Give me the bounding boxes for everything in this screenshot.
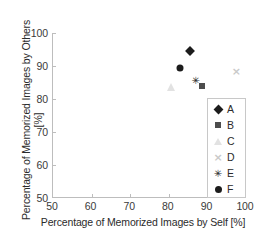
x-tick-label: 70 bbox=[114, 200, 144, 212]
y-tick-label: 90 bbox=[16, 60, 48, 72]
legend-marker-cross-x-icon: × bbox=[212, 151, 224, 163]
x-tick-label: 60 bbox=[76, 200, 106, 212]
y-tick-label: 80 bbox=[16, 93, 48, 105]
marker-circle-icon bbox=[177, 64, 184, 71]
y-tick-label: 60 bbox=[16, 159, 48, 171]
y-axis-title: Percentage of Memorized Images by Others… bbox=[20, 20, 44, 220]
x-axis-tick bbox=[130, 194, 131, 198]
legend-label: B bbox=[227, 119, 234, 131]
y-axis-tick bbox=[52, 99, 56, 100]
legend-label: F bbox=[227, 183, 233, 195]
legend-item-a: A bbox=[208, 101, 245, 117]
x-tick-label: 80 bbox=[153, 200, 183, 212]
legend-marker-triangle-icon bbox=[212, 135, 224, 147]
legend-label: A bbox=[227, 103, 234, 115]
legend-label: E bbox=[227, 167, 234, 179]
y-axis-tick bbox=[52, 66, 56, 67]
legend-marker-asterisk-icon: ✳ bbox=[212, 167, 224, 179]
x-tick-label: 50 bbox=[37, 200, 67, 212]
y-axis-tick bbox=[52, 132, 56, 133]
x-tick-label: 90 bbox=[191, 200, 221, 212]
legend-item-b: B bbox=[208, 117, 245, 133]
y-axis-tick bbox=[52, 165, 56, 166]
legend-item-e: ✳ E bbox=[208, 165, 245, 181]
legend-marker-diamond-icon bbox=[212, 103, 224, 115]
legend-item-c: C bbox=[208, 133, 245, 149]
x-axis-title: Percentage of Memorized Images by Self [… bbox=[30, 216, 256, 228]
legend-item-f: F bbox=[208, 181, 245, 197]
x-axis-tick bbox=[169, 194, 170, 198]
legend-marker-circle-icon bbox=[212, 183, 224, 195]
marker-cross-x-icon: × bbox=[232, 65, 241, 76]
legend-marker-square-icon bbox=[212, 119, 224, 131]
legend-label: C bbox=[227, 135, 235, 147]
marker-triangle-icon bbox=[167, 83, 175, 91]
scatter-chart-figure: Percentage of Memorized Images by Others… bbox=[0, 0, 256, 246]
y-tick-label: 70 bbox=[16, 126, 48, 138]
legend-label: D bbox=[227, 151, 235, 163]
x-tick-label: 100 bbox=[230, 200, 256, 212]
marker-diamond-icon bbox=[185, 47, 195, 57]
x-axis-tick bbox=[92, 194, 93, 198]
legend-item-d: × D bbox=[208, 149, 245, 165]
marker-asterisk-icon: ✳ bbox=[192, 75, 200, 86]
y-tick-label: 100 bbox=[16, 27, 48, 39]
y-axis-tick bbox=[52, 33, 56, 34]
chart-legend: A B C × D ✳ E F bbox=[207, 98, 246, 198]
